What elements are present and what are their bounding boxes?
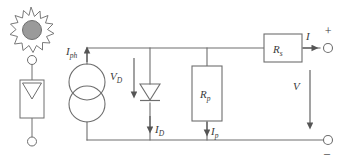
pv-top-node: [28, 56, 37, 65]
minus-sign-label: –: [323, 146, 331, 160]
output-terminal-positive[interactable]: [324, 44, 333, 53]
schematic-svg: Iph VD ID Rp: [0, 0, 349, 168]
series-resistor-body: [264, 34, 302, 62]
pv-bottom-node: [28, 137, 37, 146]
shunt-resistor: Rp: [192, 66, 222, 121]
circuit-diagram-canvas: Iph VD ID Rp: [0, 0, 349, 168]
sun-disc: [23, 21, 42, 40]
series-resistor: Rs: [264, 34, 302, 62]
plus-sign-label: +: [324, 24, 332, 38]
output-terminal-negative[interactable]: [324, 136, 333, 145]
